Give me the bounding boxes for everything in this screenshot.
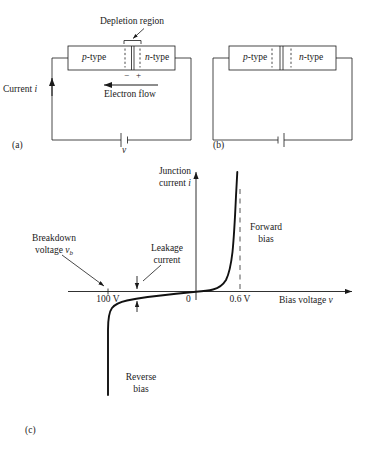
panel-a-minus-sign: − (124, 70, 129, 82)
graph-reverse-label-line1: Reverse (126, 372, 157, 382)
graph-breakdown-label-line2: voltage (35, 245, 65, 255)
graph-forward-label-line2: bias (258, 234, 273, 244)
graph-forward-tick-label: 0.6 V (230, 294, 251, 306)
panel-a-plus-sign: + (136, 70, 141, 82)
graph-x-axis-label-text: Bias voltage (279, 295, 329, 305)
panel-a-p-rest: -type (87, 52, 107, 62)
panel-b-n-type-label: n-type (299, 52, 323, 64)
graph-y-axis-label-line1: Junction (159, 166, 191, 176)
panel-c-graph (62, 172, 352, 395)
panel-a-wire-left (52, 58, 68, 140)
panel-a-circuit (52, 29, 191, 148)
graph-forward-label-line1: Forward (250, 222, 282, 232)
graph-leakage-leader (143, 265, 161, 281)
panel-a-tag: (a) (12, 140, 23, 152)
graph-breakdown-label-line1: Breakdown (32, 233, 76, 243)
graph-forward-bias-label: Forward bias (250, 222, 282, 245)
graph-leakage-current-label: Leakage current (151, 243, 183, 266)
panel-a-wire-right (175, 58, 191, 140)
graph-breakdown-label-subscript: b (70, 248, 74, 256)
panel-a-source-label: v (122, 145, 126, 157)
panel-a-current-label: Current i (3, 84, 37, 96)
graph-x-axis-label: Bias voltage v (279, 295, 333, 307)
panel-b-p-rest: -type (248, 52, 268, 62)
graph-origin-label: 0 (186, 294, 191, 306)
panel-c-tag: (c) (25, 425, 36, 437)
panel-b-wire-left (213, 58, 229, 140)
graph-iv-curve (108, 172, 237, 395)
graph-y-axis-label-line2: current (159, 178, 188, 188)
panel-a-current-italic: i (34, 84, 37, 94)
graph-leakage-label-line2: current (154, 255, 181, 265)
panel-a-depletion-region-label: Depletion region (100, 16, 164, 28)
panel-a-p-type-label: p-type (82, 52, 106, 64)
panel-b-circuit (213, 46, 352, 147)
graph-breakdown-voltage-label: Breakdown voltage vb (32, 233, 76, 259)
panel-b-wire-right (336, 58, 352, 140)
graph-y-axis-label: Junction current i (159, 166, 191, 189)
graph-y-axis-label-italic: i (188, 178, 191, 188)
panel-a-n-type-label: n-type (145, 52, 169, 64)
graph-reverse-bias-label: Reverse bias (126, 372, 157, 395)
panel-a-n-rest: -type (150, 52, 170, 62)
graph-x-axis-label-italic: v (329, 295, 333, 305)
graph-breakdown-tick-label: 100 V (96, 294, 119, 306)
panel-b-tag: (b) (213, 140, 224, 152)
graph-reverse-label-line2: bias (133, 384, 148, 394)
panel-a-depletion-brace (124, 41, 141, 45)
graph-leakage-label-line1: Leakage (151, 243, 183, 253)
panel-a-depletion-leader (133, 29, 144, 39)
panel-a-electron-flow-label: Electron flow (104, 89, 156, 101)
diode-figure: Depletion region p-type n-type − + Curre… (0, 0, 367, 456)
panel-b-n-rest: -type (304, 52, 324, 62)
figure-vector-layer (0, 0, 367, 456)
panel-b-p-type-label: p-type (243, 52, 267, 64)
panel-a-current-text: Current (3, 84, 34, 94)
graph-breakdown-leader (62, 255, 104, 286)
